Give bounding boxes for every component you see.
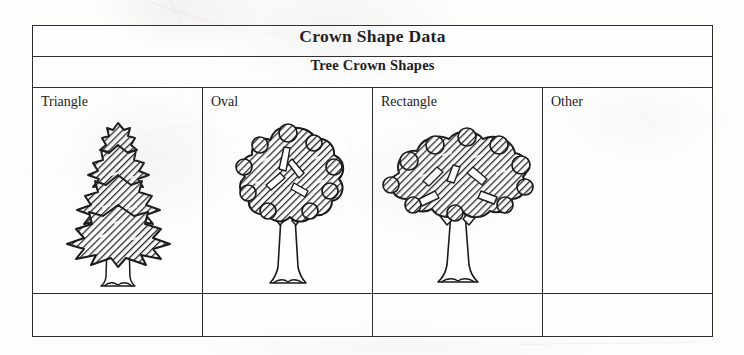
tree-illustration-rectangle bbox=[373, 114, 542, 289]
column-header-oval: Oval bbox=[203, 88, 372, 109]
column-cell-rectangle[interactable]: Rectangle bbox=[373, 88, 543, 294]
table-tally-row bbox=[33, 294, 713, 337]
crown-shape-data-table-wrapper: Crown Shape Data Tree Crown Shapes Trian… bbox=[32, 25, 713, 332]
tally-value-rectangle bbox=[373, 294, 542, 314]
tally-cell-other[interactable] bbox=[543, 294, 713, 337]
column-cell-triangle[interactable]: Triangle bbox=[33, 88, 203, 294]
table-subtitle-row: Tree Crown Shapes bbox=[33, 57, 713, 88]
tally-cell-oval[interactable] bbox=[203, 294, 373, 337]
column-cell-oval[interactable]: Oval bbox=[203, 88, 373, 294]
table-title-row: Crown Shape Data bbox=[33, 26, 713, 57]
tree-illustration-other-empty bbox=[543, 114, 712, 289]
column-header-rectangle: Rectangle bbox=[373, 88, 542, 109]
table-illustration-row: Triangle bbox=[33, 88, 713, 294]
column-header-other: Other bbox=[543, 88, 712, 109]
tree-illustration-oval bbox=[203, 114, 372, 289]
tally-cell-triangle[interactable] bbox=[33, 294, 203, 337]
worksheet-title: Crown Shape Data bbox=[33, 26, 713, 57]
column-header-triangle: Triangle bbox=[33, 88, 202, 109]
tally-cell-rectangle[interactable] bbox=[373, 294, 543, 337]
crown-shape-data-table: Crown Shape Data Tree Crown Shapes Trian… bbox=[32, 25, 713, 337]
tree-illustration-triangle bbox=[33, 114, 202, 289]
tally-value-oval bbox=[203, 294, 372, 314]
tally-value-triangle bbox=[33, 294, 202, 314]
tally-value-other bbox=[543, 294, 712, 314]
column-cell-other[interactable]: Other bbox=[543, 88, 713, 294]
worksheet-subtitle: Tree Crown Shapes bbox=[33, 57, 713, 88]
